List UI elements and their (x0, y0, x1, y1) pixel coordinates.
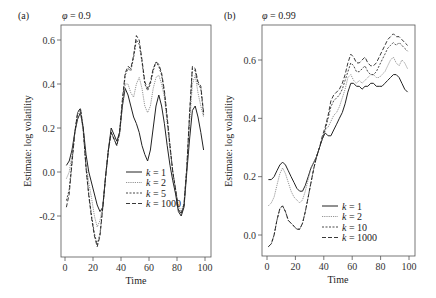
panel-a-y-axis: -0.20.00.20.40.6 (39, 35, 61, 222)
series-line (66, 40, 203, 245)
series-line (268, 34, 407, 247)
y-tick-label: 0.4 (43, 79, 56, 90)
y-tick-label: 0.4 (244, 113, 257, 124)
y-tick-label: -0.2 (39, 211, 55, 222)
y-tick-label: 0.2 (244, 171, 257, 182)
panel-b-legend: k = 1k = 2k = 10k = 1000 (322, 201, 377, 244)
legend-label: k = 1000 (146, 198, 181, 209)
phi-value: 0.9 (78, 10, 91, 21)
series-line (66, 88, 203, 216)
legend-label: k = 5 (146, 188, 166, 199)
phi-value: 0.99 (278, 10, 296, 21)
y-tick-label: 0.0 (244, 230, 257, 241)
y-tick-label: 0.0 (43, 167, 56, 178)
y-tick-label: 0.6 (244, 55, 257, 66)
x-tick-label: 100 (198, 262, 213, 273)
panel-b-y-axis: 0.00.20.40.6 (244, 55, 263, 241)
y-tick-label: 0.6 (43, 35, 56, 46)
figure: (a) φ = 0.9 -0.20.00.20.40.6 02040608010… (0, 0, 436, 298)
panel-a-series (66, 36, 203, 247)
series-line (268, 57, 407, 206)
x-tick-label: 100 (402, 261, 417, 272)
x-tick-label: 60 (347, 261, 357, 272)
panel-b-series (268, 34, 407, 247)
series-line (66, 36, 203, 247)
panel-a: (a) φ = 0.9 -0.20.00.20.40.6 02040608010… (18, 10, 213, 286)
x-tick-label: 0 (63, 262, 68, 273)
panel-b-label: (b) (224, 10, 236, 22)
panel-b-x-axis: 020406080100 (265, 256, 417, 272)
x-tick-label: 80 (376, 261, 386, 272)
series-line (268, 75, 407, 192)
panel-a-y-label: Estimate: log volatility (22, 95, 33, 187)
panel-a-x-label: Time (126, 275, 147, 286)
panel-a-label: (a) (18, 10, 29, 22)
panel-a-title: φ = 0.9 (62, 10, 91, 21)
x-tick-label: 0 (265, 261, 270, 272)
panel-b-title: φ = 0.99 (262, 10, 296, 21)
panel-a-x-axis: 020406080100 (63, 257, 213, 273)
panel-b-x-label: Time (328, 274, 349, 285)
legend-label: k = 1 (342, 201, 362, 212)
x-tick-label: 40 (116, 262, 126, 273)
x-tick-label: 20 (290, 261, 300, 272)
legend-label: k = 1 (146, 167, 166, 178)
x-tick-label: 40 (319, 261, 329, 272)
y-tick-label: 0.2 (43, 123, 56, 134)
x-tick-label: 20 (88, 262, 98, 273)
x-tick-label: 60 (144, 262, 154, 273)
panel-b: (b) φ = 0.99 0.00.20.40.6 020406080100 T… (223, 10, 417, 285)
panel-b-frame (262, 25, 415, 256)
legend-label: k = 10 (342, 222, 367, 233)
legend-label: k = 2 (342, 211, 362, 222)
legend-label: k = 2 (146, 177, 166, 188)
panel-b-y-label: Estimate: log volatility (223, 95, 234, 187)
x-tick-label: 80 (172, 262, 182, 273)
panel-a-legend: k = 1k = 2k = 5k = 1000 (126, 167, 181, 210)
legend-label: k = 1000 (342, 232, 377, 243)
series-line (66, 75, 203, 227)
